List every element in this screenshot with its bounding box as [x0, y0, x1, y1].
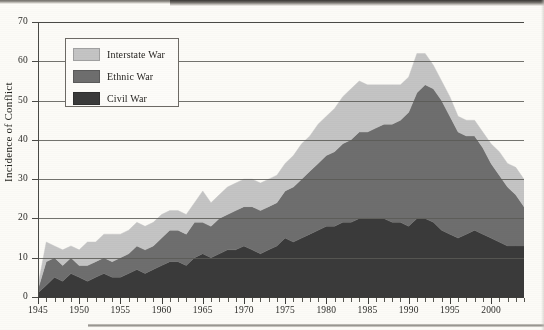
x-tick-minor-1997 — [466, 298, 467, 302]
x-tick-minor-1957 — [137, 298, 138, 302]
civil-war-swatch — [73, 92, 100, 105]
x-tick-minor-1999 — [483, 298, 484, 302]
x-tick-minor-1976 — [293, 298, 294, 302]
y-tick-label-0: 0 — [0, 291, 28, 301]
x-tick-minor-1984 — [359, 298, 360, 302]
x-axis-line — [38, 297, 524, 298]
scan-edge-bottom-artifact — [88, 324, 544, 327]
x-tick-minor-1962 — [178, 298, 179, 302]
x-tick-label-1965: 1965 — [193, 305, 213, 315]
x-tick-minor-1996 — [458, 298, 459, 302]
x-tick-minor-1986 — [376, 298, 377, 302]
y-tick-label-70: 70 — [0, 16, 28, 26]
x-tick-label-1945: 1945 — [28, 305, 48, 315]
x-tick-minor-1961 — [170, 298, 171, 302]
x-tick-label-1955: 1955 — [110, 305, 130, 315]
x-tick-minor-1973 — [269, 298, 270, 302]
x-tick-minor-1992 — [425, 298, 426, 302]
legend-label-civil-war: Civil War — [107, 93, 147, 104]
y-tick-label-30: 30 — [0, 173, 28, 183]
x-tick-label-1980: 1980 — [316, 305, 336, 315]
x-tick-minor-2003 — [516, 298, 517, 302]
x-tick-minor-1981 — [335, 298, 336, 302]
x-tick-minor-1983 — [351, 298, 352, 302]
x-tick-major-1995 — [450, 298, 451, 304]
legend-label-interstate-war: Interstate War — [107, 49, 165, 60]
interstate-war-swatch — [73, 48, 100, 61]
legend-item-interstate-war: Interstate War — [73, 45, 172, 64]
x-tick-label-1990: 1990 — [399, 305, 419, 315]
x-tick-minor-2002 — [508, 298, 509, 302]
x-tick-major-1985 — [368, 298, 369, 304]
legend-item-civil-war: Civil War — [73, 89, 172, 108]
scan-edge-top-dark-artifact — [170, 0, 544, 6]
x-tick-minor-1977 — [302, 298, 303, 302]
x-tick-minor-1946 — [46, 298, 47, 302]
x-tick-minor-1964 — [195, 298, 196, 302]
legend-item-ethnic-war: Ethnic War — [73, 67, 172, 86]
x-tick-minor-1978 — [310, 298, 311, 302]
x-tick-minor-2004 — [524, 298, 525, 302]
x-tick-major-1975 — [285, 298, 286, 304]
x-tick-major-1950 — [79, 298, 80, 304]
y-tick-60 — [32, 61, 38, 62]
x-tick-minor-1998 — [475, 298, 476, 302]
x-tick-minor-1958 — [145, 298, 146, 302]
x-tick-minor-1968 — [228, 298, 229, 302]
x-tick-minor-1971 — [252, 298, 253, 302]
x-tick-major-1980 — [326, 298, 327, 304]
ethnic-war-swatch — [73, 70, 100, 83]
x-tick-minor-1966 — [211, 298, 212, 302]
x-tick-major-1960 — [162, 298, 163, 304]
x-tick-minor-1952 — [96, 298, 97, 302]
x-tick-minor-1959 — [153, 298, 154, 302]
x-tick-label-1970: 1970 — [234, 305, 254, 315]
x-tick-major-1955 — [120, 298, 121, 304]
x-tick-minor-1994 — [442, 298, 443, 302]
x-tick-major-1970 — [244, 298, 245, 304]
x-tick-label-1995: 1995 — [440, 305, 460, 315]
y-tick-10 — [32, 258, 38, 259]
y-tick-20 — [32, 218, 38, 219]
y-tick-label-50: 50 — [0, 95, 28, 105]
chart-legend: Interstate War Ethnic War Civil War — [65, 38, 179, 107]
x-tick-major-1945 — [38, 298, 39, 304]
x-tick-major-1990 — [409, 298, 410, 304]
x-tick-minor-1947 — [55, 298, 56, 302]
x-tick-minor-1982 — [343, 298, 344, 302]
x-tick-minor-1969 — [236, 298, 237, 302]
x-tick-label-1985: 1985 — [358, 305, 378, 315]
x-tick-label-1975: 1975 — [275, 305, 295, 315]
x-tick-label-1960: 1960 — [152, 305, 172, 315]
x-tick-minor-1948 — [63, 298, 64, 302]
y-tick-40 — [32, 140, 38, 141]
x-tick-minor-1972 — [260, 298, 261, 302]
y-tick-label-20: 20 — [0, 212, 28, 222]
x-tick-minor-1949 — [71, 298, 72, 302]
legend-label-ethnic-war: Ethnic War — [107, 71, 153, 82]
x-tick-minor-1993 — [433, 298, 434, 302]
y-tick-label-60: 60 — [0, 55, 28, 65]
x-tick-minor-1974 — [277, 298, 278, 302]
x-tick-minor-1987 — [384, 298, 385, 302]
x-tick-minor-1953 — [104, 298, 105, 302]
x-tick-minor-1954 — [112, 298, 113, 302]
y-axis-title: Incidence of Conflict — [2, 2, 14, 262]
x-tick-minor-1951 — [87, 298, 88, 302]
x-tick-label-2000: 2000 — [481, 305, 501, 315]
x-tick-major-2000 — [491, 298, 492, 304]
x-tick-minor-2001 — [499, 298, 500, 302]
x-tick-minor-1963 — [186, 298, 187, 302]
x-tick-minor-1988 — [392, 298, 393, 302]
y-tick-50 — [32, 101, 38, 102]
y-tick-70 — [32, 22, 38, 23]
y-tick-label-10: 10 — [0, 252, 28, 262]
chart-figure: Incidence of Conflict 010203040506070194… — [0, 0, 544, 330]
x-tick-label-1950: 1950 — [69, 305, 89, 315]
y-tick-30 — [32, 179, 38, 180]
x-tick-minor-1989 — [400, 298, 401, 302]
x-tick-minor-1979 — [318, 298, 319, 302]
x-tick-minor-1956 — [129, 298, 130, 302]
y-tick-label-40: 40 — [0, 134, 28, 144]
x-tick-major-1965 — [203, 298, 204, 304]
